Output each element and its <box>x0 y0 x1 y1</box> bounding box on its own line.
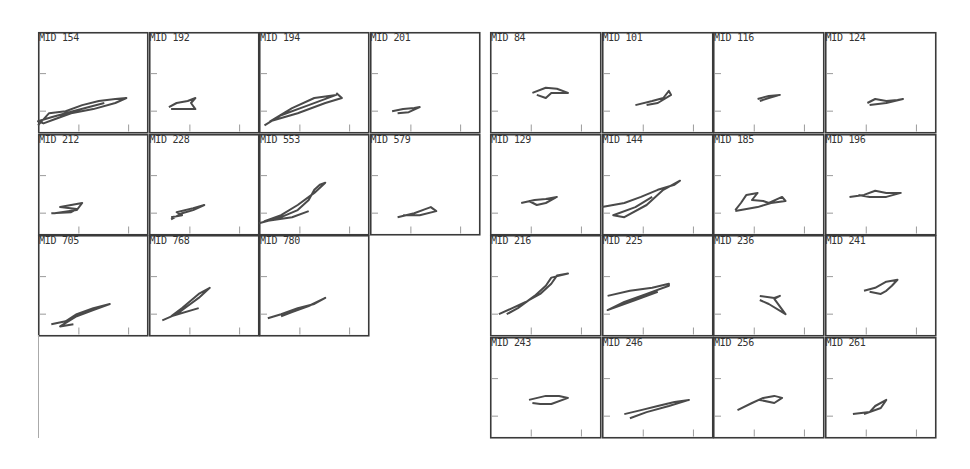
plot-panel: MID 124 <box>825 32 937 134</box>
plot-panel: MID 553 <box>259 134 370 236</box>
panel-label: MID 579 <box>371 134 411 145</box>
panel-label: MID 194 <box>260 32 300 43</box>
plot-panel: MID 228 <box>149 134 260 236</box>
plot-panel: MID 216 <box>490 235 602 337</box>
trajectory-trace <box>532 88 568 98</box>
plot-panel: MID 768 <box>149 235 260 337</box>
plot-panel: MID 256 <box>713 337 825 439</box>
trajectory-trace <box>499 274 568 315</box>
trajectory-trace <box>758 95 780 101</box>
panel-label: MID 101 <box>603 32 643 43</box>
panel-label: MID 216 <box>491 235 531 246</box>
panel-plot-area <box>825 32 937 134</box>
panel-label: MID 243 <box>491 337 531 348</box>
trajectory-trace <box>162 288 210 321</box>
plot-panel: MID 705 <box>38 235 149 337</box>
panel-label: MID 212 <box>39 134 79 145</box>
trajectory-trace <box>171 205 204 219</box>
plot-panel: MID 241 <box>825 235 937 337</box>
plot-panel: MID 246 <box>602 337 714 439</box>
panel-plot-area <box>602 235 714 337</box>
panel-label: MID 236 <box>714 235 754 246</box>
panel-plot-area <box>490 32 602 134</box>
panel-label: MID 241 <box>826 235 866 246</box>
panel-plot-area <box>370 134 481 236</box>
panel-plot-area <box>602 134 714 236</box>
left-axis-extension <box>38 335 39 438</box>
plot-panel: MID 212 <box>38 134 149 236</box>
panel-plot-area <box>713 32 825 134</box>
panel-plot-area <box>370 32 481 134</box>
panel-label: MID 201 <box>371 32 411 43</box>
trajectory-trace <box>529 395 568 403</box>
trajectory-trace <box>607 284 668 310</box>
plot-panel: MID 129 <box>490 134 602 236</box>
panel-label: MID 196 <box>826 134 866 145</box>
panel-label: MID 228 <box>150 134 190 145</box>
trajectory-trace <box>168 98 195 109</box>
panel-plot-area <box>713 337 825 439</box>
trajectory-trace <box>521 196 557 204</box>
trajectory-trace <box>760 296 786 314</box>
panel-plot-area <box>825 337 937 439</box>
trajectory-trace <box>38 98 126 125</box>
plot-panel: MID 194 <box>259 32 370 134</box>
panel-plot-area <box>259 134 370 236</box>
small-multiples-figure: MID 154MID 192MID 194MID 201MID 212MID 2… <box>0 0 970 469</box>
panel-label: MID 144 <box>603 134 643 145</box>
panel-label: MID 256 <box>714 337 754 348</box>
trajectory-trace <box>635 91 671 105</box>
trajectory-trace <box>259 182 325 223</box>
trajectory-trace <box>852 399 885 413</box>
plot-panel: MID 236 <box>713 235 825 337</box>
plot-panel: MID 579 <box>370 134 481 236</box>
panel-label: MID 705 <box>39 235 79 246</box>
plot-panel: MID 196 <box>825 134 937 236</box>
trajectory-trace <box>392 107 420 113</box>
trajectory-trace <box>268 298 326 318</box>
panel-label: MID 261 <box>826 337 866 348</box>
panel-label: MID 84 <box>491 32 525 43</box>
panel-label: MID 192 <box>150 32 190 43</box>
panel-plot-area <box>259 32 370 134</box>
panel-plot-area <box>602 32 714 134</box>
plot-panel: MID 185 <box>713 134 825 236</box>
plot-panel: MID 243 <box>490 337 602 439</box>
panel-plot-area <box>259 235 370 337</box>
panel-label: MID 246 <box>603 337 643 348</box>
panel-plot-area <box>38 32 149 134</box>
trajectory-trace <box>864 280 898 294</box>
panel-label: MID 185 <box>714 134 754 145</box>
panel-label: MID 116 <box>714 32 754 43</box>
panel-plot-area <box>490 134 602 236</box>
panel-label: MID 154 <box>39 32 79 43</box>
panel-plot-area <box>149 134 260 236</box>
trajectory-trace <box>51 304 110 326</box>
panel-label: MID 780 <box>260 235 300 246</box>
panel-plot-area <box>713 235 825 337</box>
plot-panel: MID 116 <box>713 32 825 134</box>
plot-panel: MID 225 <box>602 235 714 337</box>
trajectory-trace <box>867 99 903 105</box>
panel-plot-area <box>602 337 714 439</box>
panel-plot-area <box>38 235 149 337</box>
plot-panel: MID 192 <box>149 32 260 134</box>
trajectory-trace <box>849 190 900 196</box>
plot-panel: MID 84 <box>490 32 602 134</box>
panel-label: MID 129 <box>491 134 531 145</box>
panel-plot-area <box>713 134 825 236</box>
trajectory-trace <box>265 93 342 126</box>
trajectory-trace <box>738 395 783 409</box>
panel-label: MID 124 <box>826 32 866 43</box>
panel-label: MID 225 <box>603 235 643 246</box>
plot-panel: MID 201 <box>370 32 481 134</box>
panel-plot-area <box>490 337 602 439</box>
trajectory-trace <box>735 192 785 210</box>
trajectory-trace <box>397 207 436 217</box>
panel-label: MID 768 <box>150 235 190 246</box>
plot-panel: MID 154 <box>38 32 149 134</box>
plot-panel: MID 780 <box>259 235 370 337</box>
panel-plot-area <box>149 235 260 337</box>
panel-plot-area <box>825 134 937 236</box>
trajectory-trace <box>51 203 82 213</box>
